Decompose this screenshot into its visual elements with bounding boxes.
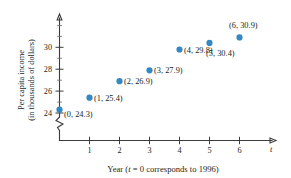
x-tick-label-1: 1 [87,146,91,155]
scatter-plot-svg: 24 26 28 30 1 2 3 4 5 6 t (0, 24.3) [0,0,291,178]
data-point-4 [176,46,182,52]
data-point-0 [56,107,62,113]
x-tick-label-6: 6 [237,146,241,155]
scatter-plot-figure: 24 26 28 30 1 2 3 4 5 6 t (0, 24.3) [0,0,291,178]
data-point-label-1: (1, 25.4) [94,94,123,103]
y-tick-label-26: 26 [44,87,52,96]
x-tick-label-2: 2 [117,146,121,155]
x-axis-title-after: = 0 corresponds to 1996) [131,164,219,174]
y-axis-title-line1: Per capita income [17,50,26,110]
y-tick-label-28: 28 [44,65,52,74]
y-axis-break-icon [56,117,63,131]
data-point-3 [146,67,152,73]
data-point-label-5: (5, 30.4) [206,49,235,58]
x-axis-title-before: Year ( [107,164,128,174]
y-tick-label-24: 24 [44,109,52,118]
data-point-6 [236,34,242,40]
y-axis-title-line2: (in thousands of dollars) [27,39,36,121]
x-axis-title: Year (t = 0 corresponds to 1996) [107,164,219,174]
data-point-label-3: (3, 27.9) [154,66,183,75]
y-tick-label-30: 30 [44,43,52,52]
x-tick-label-5: 5 [207,146,211,155]
data-point-label-2: (2, 26.9) [124,77,153,86]
data-point-label-6: (6, 30.9) [229,21,258,30]
x-tick-label-4: 4 [177,146,181,155]
data-point-label-0: (0, 24.3) [64,110,93,119]
x-tick-label-3: 3 [147,146,151,155]
x-axis-variable-label: t [270,145,273,154]
data-point-2 [116,78,122,84]
data-point-1 [86,95,92,101]
